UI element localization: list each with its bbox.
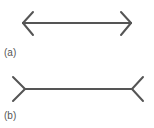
fin-line bbox=[23, 23, 33, 35]
fin-line bbox=[13, 89, 25, 101]
figure-b-lines bbox=[13, 77, 143, 101]
fin-line bbox=[23, 12, 33, 23]
fin-line bbox=[121, 12, 131, 23]
fin-line bbox=[132, 89, 143, 101]
fin-line bbox=[121, 23, 131, 35]
figure-b-label: (b) bbox=[4, 111, 16, 121]
figure-a-lines bbox=[23, 12, 131, 35]
fin-line bbox=[132, 77, 143, 89]
fin-line bbox=[13, 77, 25, 89]
muller-lyer-diagram bbox=[0, 0, 154, 128]
figure-a-label: (a) bbox=[4, 48, 16, 58]
